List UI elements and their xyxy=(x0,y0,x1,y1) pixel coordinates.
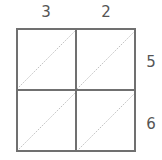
top-digit-2: 2 xyxy=(96,5,116,20)
right-digit-2: 6 xyxy=(141,117,161,132)
lattice-grid-lines xyxy=(16,28,136,152)
lattice-grid xyxy=(16,28,136,152)
cell-borders xyxy=(17,29,135,151)
top-digit-1: 3 xyxy=(36,5,56,20)
right-digit-1: 5 xyxy=(141,55,161,70)
